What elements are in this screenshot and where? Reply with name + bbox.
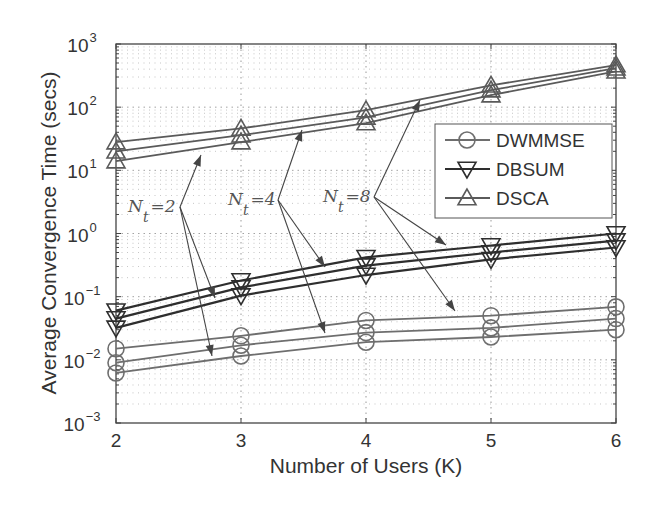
annotation-label-nt8: Nt=8	[322, 186, 371, 215]
annotation-label-nt4: Nt=4	[227, 189, 276, 218]
annotation-symbol: N	[127, 196, 144, 216]
y-axis-ticks: 10310210110010−110−210−3	[64, 30, 616, 435]
legend: DWMMSEDBSUMDSCA	[435, 124, 612, 218]
annotation-symbol: N	[322, 186, 339, 206]
y-tick-exponent: −1	[86, 283, 101, 298]
series-dwmmse-nt8	[108, 299, 624, 357]
arrowhead-icon	[435, 236, 446, 245]
arrowhead-icon	[295, 130, 303, 142]
annotation-subscript: t	[243, 202, 249, 218]
y-tick-exponent: 2	[89, 93, 96, 108]
series-dbsum-nt2	[107, 241, 625, 337]
annotations: Nt=2Nt=4Nt=8	[127, 186, 371, 225]
annotation-arrow-line	[180, 207, 212, 356]
annotation-symbol: N	[227, 189, 244, 209]
arrowhead-icon	[193, 155, 201, 167]
annotation-value: =4	[251, 189, 276, 209]
arrowhead-icon	[445, 300, 455, 311]
y-axis-title: Average Convergence Time (secs)	[37, 72, 60, 395]
annotation-value: =8	[346, 186, 371, 206]
y-tick-label: 10−3	[64, 409, 101, 435]
annotation-value: =2	[151, 196, 176, 216]
y-tick-label: 100	[67, 220, 96, 246]
annotation-label-nt2: Nt=2	[127, 196, 176, 225]
chart: 23456 10310210110010−110−210−3 Nt=2Nt=4N…	[0, 0, 657, 508]
x-tick-label: 3	[236, 430, 247, 451]
y-tick-label: 103	[67, 30, 96, 56]
y-tick-exponent: 1	[89, 156, 96, 171]
annotation-subscript: t	[143, 209, 149, 225]
x-tick-label: 5	[486, 430, 497, 451]
y-tick-label: 102	[67, 93, 96, 119]
legend-label: DSCA	[496, 188, 549, 209]
y-tick-exponent: −3	[86, 409, 101, 424]
annotation-arrow-line	[278, 200, 325, 267]
series-line	[116, 241, 616, 319]
legend-label: DBSUM	[496, 159, 565, 180]
y-tick-label: 101	[67, 156, 96, 182]
x-tick-label: 2	[111, 430, 122, 451]
y-tick-exponent: 0	[89, 220, 96, 235]
x-tick-label: 4	[361, 430, 372, 451]
arrowhead-icon	[412, 100, 420, 112]
x-axis-title: Number of Users (K)	[270, 454, 463, 477]
y-tick-exponent: 3	[89, 30, 96, 45]
y-tick-label: 10−1	[64, 283, 101, 309]
y-tick-label: 10−2	[64, 346, 101, 372]
x-tick-label: 6	[611, 430, 622, 451]
annotation-subscript: t	[338, 199, 344, 215]
legend-label: DWMMSE	[496, 130, 585, 151]
y-tick-exponent: −2	[86, 346, 101, 361]
